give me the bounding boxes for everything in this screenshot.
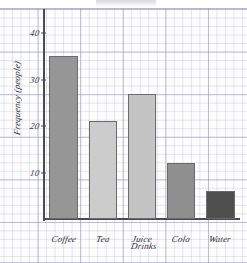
x-tick-label-water: Water — [208, 234, 232, 244]
y-tick-mark-20 — [41, 126, 46, 127]
x-axis-title: Drinks — [130, 241, 157, 251]
x-tick-label-coffee: Coffee — [50, 234, 76, 244]
y-tick-label-20: 20 — [30, 121, 41, 131]
y-axis-title: Frequency (people) — [12, 60, 22, 136]
bar-water — [206, 191, 234, 219]
plot-area: CoffeeTeaJuiceColaWater10203040 — [44, 10, 240, 219]
y-tick-mark-10 — [41, 172, 46, 173]
x-tick-label-cola: Cola — [171, 234, 191, 244]
y-tick-label-30: 30 — [30, 75, 41, 85]
x-tick-label-tea: Tea — [95, 234, 110, 244]
bar-tea — [89, 121, 117, 219]
page-top-artifact — [96, 0, 156, 7]
bar-cola — [167, 163, 195, 219]
bar-juice — [128, 94, 156, 219]
y-tick-mark-40 — [41, 33, 46, 34]
y-tick-mark-30 — [41, 79, 46, 80]
bar-coffee — [49, 56, 77, 219]
chart-canvas: CoffeeTeaJuiceColaWater10203040 Frequenc… — [0, 0, 247, 263]
y-tick-label-10: 10 — [30, 168, 41, 178]
y-tick-label-40: 40 — [30, 28, 41, 38]
